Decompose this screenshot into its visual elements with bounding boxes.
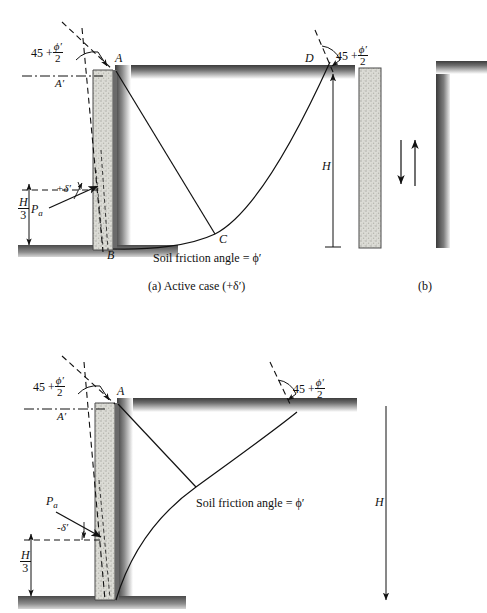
backfill-surface-a [115, 65, 355, 79]
force-subscript: a [38, 208, 43, 218]
angle-label-a-left: 45 +ϕ′2 [31, 41, 63, 64]
failure-surface-BCD-a [113, 62, 330, 249]
angle-arrow-c-left [100, 386, 109, 400]
force-label-Pa-c: Pa [46, 495, 58, 510]
soil-friction-label-a: Soil friction angle = ϕ′ [153, 252, 261, 264]
angle-label-a-right: 45 +ϕ′2 [336, 44, 368, 67]
point-label-A-prime-a: A′ [55, 78, 64, 89]
angle-arrow-a-left [98, 52, 107, 66]
wall-slab-b [359, 68, 381, 248]
height-label-H3-c: H3 [20, 549, 31, 574]
h3-numerator: H [20, 549, 31, 562]
height-label-H-a: H [322, 160, 331, 172]
delta-label-c: -δ′ [57, 522, 68, 533]
point-label-A-c: A [117, 385, 124, 397]
point-label-B-a: B [107, 249, 114, 261]
wall-stem-b [436, 67, 450, 248]
caption-panel-b: (b) [418, 279, 432, 294]
point-label-A-a: A [115, 52, 122, 64]
wall-shadow-c [115, 403, 119, 600]
angle-base-text: 45 + [293, 382, 315, 396]
caption-panel-a: (a) Active case (+δ′) [148, 279, 245, 294]
point-label-D-a: D [305, 52, 314, 64]
h3-denominator: 3 [18, 209, 29, 221]
angle-base-text: 45 + [336, 49, 358, 63]
wall-shadow-a [113, 70, 117, 250]
soil-friction-label-c: Soil friction angle = ϕ′ [196, 497, 304, 509]
angle-arc-c-left [78, 386, 100, 394]
height-label-H-c: H [375, 496, 384, 508]
panel-c-graphics [18, 356, 386, 609]
angle-base-text: 45 + [33, 380, 55, 394]
figure-vector-layer [0, 0, 487, 613]
height-label-H3-a: H3 [18, 196, 29, 221]
wall-top-b [436, 61, 487, 74]
angle-denominator: 2 [315, 389, 325, 400]
force-subscript: a [53, 500, 58, 510]
force-label-Pa-a: Pa [31, 203, 43, 218]
angle-denominator: 2 [358, 56, 368, 67]
angle-base-text: 45 + [31, 46, 53, 60]
angle-label-c-right: 45 +ϕ′2 [293, 377, 325, 400]
h3-denominator: 3 [20, 562, 31, 574]
panel-b-graphics [359, 61, 487, 248]
h3-numerator: H [18, 196, 29, 209]
angle-denominator: 2 [53, 53, 63, 64]
delta-label-a: +δ′ [56, 183, 71, 194]
soil-face-shading-c [117, 398, 133, 603]
retaining-wall-a [93, 70, 113, 250]
point-label-C-a: C [219, 233, 227, 245]
angle-denominator: 2 [55, 387, 65, 398]
point-label-A-prime-c: A′ [57, 411, 66, 422]
angle-label-c-left: 45 +ϕ′2 [33, 375, 65, 398]
retaining-wall-c [95, 403, 115, 600]
angle-arrow-delta-a [74, 183, 82, 199]
figure-canvas: 45 +ϕ′2 A A′ B C D 45 +ϕ′2 H H3 Pa +δ′ S… [0, 0, 487, 613]
